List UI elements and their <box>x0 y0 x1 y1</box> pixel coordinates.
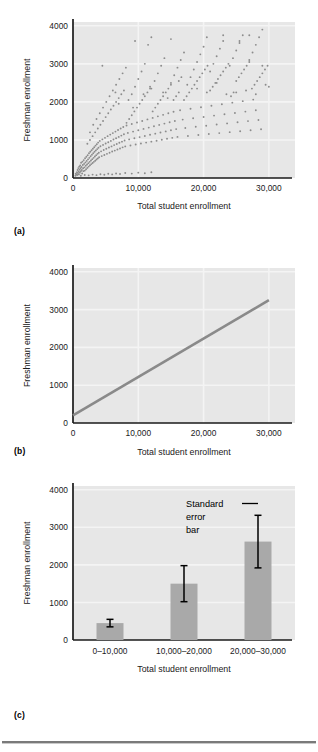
scatter-point <box>80 175 82 177</box>
scatter-point <box>229 65 231 67</box>
scatter-point <box>150 171 152 173</box>
scatter-point <box>191 88 193 90</box>
scatter-point <box>230 95 232 97</box>
scatter-point <box>257 119 259 121</box>
scatter-point <box>183 51 185 53</box>
scatter-plot-svg: 01000200030004000Freshman enrollment010,… <box>0 0 318 240</box>
scatter-point <box>260 128 262 130</box>
scatter-point <box>177 67 179 69</box>
scatter-point <box>105 148 107 150</box>
x-axis-title: Total student enrollment <box>137 664 231 674</box>
scatter-point <box>225 67 227 69</box>
scatter-point <box>171 137 173 139</box>
scatter-point <box>137 78 139 80</box>
scatter-point <box>199 53 201 55</box>
scatter-point <box>88 157 90 159</box>
y-tick-label: 0 <box>63 173 68 183</box>
scatter-point <box>221 103 223 105</box>
scatter-point <box>83 163 85 165</box>
scatter-point <box>197 134 199 136</box>
scatter-point <box>90 155 92 157</box>
scatter-point <box>203 46 205 48</box>
scatter-point <box>152 117 154 119</box>
scatter-point <box>150 141 152 143</box>
figure-container: 01000200030004000Freshman enrollment010,… <box>0 0 318 752</box>
scatter-point <box>196 61 198 63</box>
scatter-point <box>241 72 243 74</box>
scatter-point <box>106 153 108 155</box>
scatter-point <box>233 91 235 93</box>
scatter-point <box>105 101 107 103</box>
scatter-point <box>157 115 159 117</box>
scatter-point <box>166 138 168 140</box>
regression-plot-svg: 01000200030004000Freshman enrollment010,… <box>0 240 318 462</box>
scatter-point <box>165 91 167 93</box>
scatter-point <box>92 148 94 150</box>
scatter-point <box>206 36 208 38</box>
panel-label-c: (c) <box>14 710 25 720</box>
scatter-point <box>120 128 122 130</box>
scatter-point <box>178 91 180 93</box>
scatter-point <box>160 65 162 67</box>
y-tick-label: 2000 <box>49 342 68 352</box>
scatter-point <box>107 135 109 137</box>
scatter-point <box>170 84 172 86</box>
scatter-point <box>131 123 133 125</box>
scatter-point <box>137 129 139 131</box>
scatter-point <box>258 36 260 38</box>
scatter-point <box>104 137 106 139</box>
scatter-point <box>139 103 141 105</box>
scatter-point <box>111 173 113 175</box>
x-tick-label: 10,000–20,000 <box>156 646 212 656</box>
scatter-point <box>248 61 250 63</box>
scatter-point <box>88 174 90 176</box>
scatter-point <box>128 99 130 101</box>
scatter-point <box>102 144 104 146</box>
scatter-point <box>118 103 120 105</box>
scatter-point <box>126 125 128 127</box>
scatter-point <box>144 172 146 174</box>
scatter-point <box>139 136 141 138</box>
scatter-point <box>146 118 148 120</box>
scatter-point <box>99 145 101 147</box>
y-tick-label: 0 <box>63 635 68 645</box>
y-axis-title: Freshman enrollment <box>22 303 32 387</box>
scatter-point <box>99 140 101 142</box>
scatter-point <box>132 131 134 133</box>
scatter-point <box>200 106 202 108</box>
scatter-point <box>244 111 246 113</box>
scatter-point <box>111 145 113 147</box>
scatter-point <box>255 93 257 95</box>
scatter-point <box>149 86 151 88</box>
scatter-point <box>79 164 81 166</box>
scatter-point <box>107 173 109 175</box>
scatter-point <box>235 80 237 82</box>
scatter-point <box>248 34 250 36</box>
scatter-point <box>248 59 250 61</box>
scatter-point <box>122 126 124 128</box>
x-tick-label: 20,000 <box>191 428 217 438</box>
scatter-point <box>126 122 128 124</box>
scatter-point <box>242 34 244 36</box>
scatter-point <box>128 138 130 140</box>
scatter-point <box>148 127 150 129</box>
scatter-point <box>118 136 120 138</box>
scatter-point <box>195 126 197 128</box>
x-axis-title: Total student enrollment <box>137 447 231 457</box>
scatter-point <box>114 131 116 133</box>
scatter-point <box>163 57 165 59</box>
scatter-point <box>227 63 229 65</box>
scatter-point <box>98 147 100 149</box>
scatter-point <box>229 131 231 133</box>
scatter-point <box>222 34 224 36</box>
plot-background <box>73 268 295 423</box>
scatter-point <box>239 42 241 44</box>
scatter-point <box>251 88 253 90</box>
scatter-point <box>219 48 221 50</box>
scatter-point <box>196 88 198 90</box>
scatter-point <box>124 140 126 142</box>
scatter-point <box>115 101 117 103</box>
scatter-point <box>252 51 254 53</box>
scatter-point <box>170 82 172 84</box>
scatter-point <box>131 93 133 95</box>
